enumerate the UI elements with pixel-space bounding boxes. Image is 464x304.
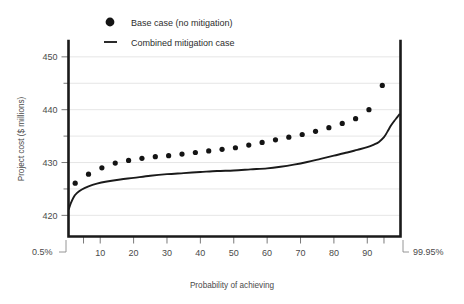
data-point (233, 145, 238, 150)
data-point (273, 137, 278, 142)
y-tick-label-420: 420 (42, 211, 57, 221)
x-tick-label-30: 30 (162, 248, 172, 258)
data-point (246, 142, 251, 147)
x-tick-label-40: 40 (195, 248, 205, 258)
data-point (126, 158, 131, 163)
data-point (99, 165, 104, 170)
x-tick-label-90: 90 (362, 248, 372, 258)
y-axis-title: Project cost ($ millions) (17, 96, 26, 181)
y-tick-label-450: 450 (42, 52, 57, 62)
x-axis-tick-labels: 102030405060708090 (95, 248, 372, 258)
x-tick-label-50: 50 (229, 248, 239, 258)
legend-label-base-case: Base case (no mitigation) (131, 18, 233, 28)
data-point (113, 160, 118, 165)
data-point (326, 125, 331, 130)
data-point (300, 132, 305, 137)
y-tick-label-440: 440 (42, 105, 57, 115)
x-tick-label-70: 70 (296, 248, 306, 258)
cumulative-cost-probability-chart: 420430440450 102030405060708090 0.5% 99.… (0, 0, 464, 304)
x-tick-label-20: 20 (129, 248, 139, 258)
data-point (206, 148, 211, 153)
data-point (313, 129, 318, 134)
data-point (179, 151, 184, 156)
data-point (380, 83, 385, 88)
x-tick-label-60: 60 (262, 248, 272, 258)
x-axis-low-endpoint-label: 0.5% (32, 247, 53, 257)
y-tick-label-430: 430 (42, 158, 57, 168)
data-point (219, 147, 224, 152)
data-point (153, 154, 158, 159)
data-point (166, 153, 171, 158)
x-axis-high-endpoint-label: 99.95% (413, 247, 444, 257)
legend-label-combined-mitigation: Combined mitigation case (131, 38, 235, 48)
legend-circle-marker-icon (106, 18, 115, 27)
x-axis-title: Probability of achieving (190, 281, 275, 290)
data-point (193, 150, 198, 155)
data-point (260, 140, 265, 145)
x-tick-label-10: 10 (95, 248, 105, 258)
data-point (353, 116, 358, 121)
data-point (340, 121, 345, 126)
data-point (139, 156, 144, 161)
x-tick-label-80: 80 (329, 248, 339, 258)
chart-container: 420430440450 102030405060708090 0.5% 99.… (0, 0, 464, 304)
data-point (366, 107, 371, 112)
data-point (286, 135, 291, 140)
data-point (73, 181, 78, 186)
data-point (86, 172, 91, 177)
